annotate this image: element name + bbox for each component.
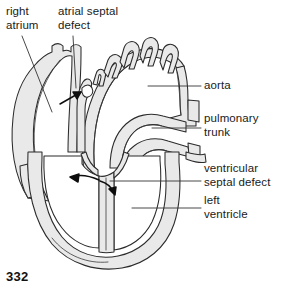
label-right-atrium: right atrium (6, 4, 39, 32)
label-ventricular-septal-defect: ventricular septal defect (204, 161, 271, 189)
heart-anatomy-diagram: .tis { fill:#e9e9e9; stroke:#2b2b2b; str… (0, 0, 284, 290)
label-pulmonary-trunk: pulmonary trunk (204, 111, 259, 139)
figure-page: .tis { fill:#e9e9e9; stroke:#2b2b2b; str… (0, 0, 284, 290)
label-atrial-septal-defect: atrial septal defect (58, 4, 118, 32)
label-left-ventricle: left ventricle (204, 193, 248, 221)
ventricles-structure (28, 152, 180, 269)
label-aorta: aorta (204, 78, 231, 92)
page-number: 332 (6, 269, 29, 284)
